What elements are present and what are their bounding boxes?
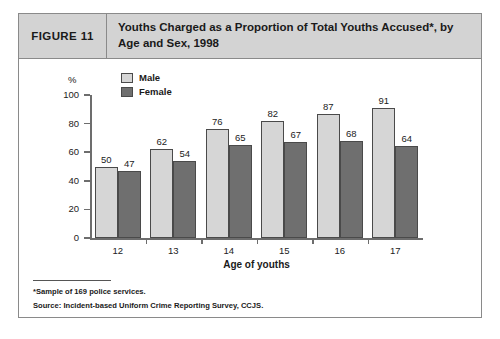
- x-axis-tick-label: 16: [320, 245, 360, 256]
- bar-value-label: 62: [145, 136, 179, 147]
- bar-male-age-12: [95, 167, 118, 239]
- bar-value-label: 65: [223, 132, 257, 143]
- y-axis-tick: [84, 180, 90, 182]
- x-axis-tick: [257, 239, 259, 244]
- bar-female-age-12: [118, 171, 141, 238]
- bar-value-label: 64: [390, 133, 424, 144]
- figure-header: FIGURE 11 Youths Charged as a Proportion…: [19, 14, 481, 59]
- bar-female-age-13: [173, 161, 196, 238]
- footnote-divider: [33, 280, 111, 281]
- y-axis-tick: [84, 237, 90, 239]
- bar-male-age-13: [150, 149, 173, 238]
- x-axis-tick: [368, 239, 370, 244]
- footnote-source: Source: Incident-based Uniform Crime Rep…: [33, 300, 453, 311]
- bar-male-age-14: [206, 129, 229, 238]
- legend-label: Male: [139, 72, 160, 83]
- bar-value-label: 47: [112, 158, 146, 169]
- bar-female-age-16: [340, 141, 363, 238]
- figure-number-label: FIGURE 11: [31, 30, 93, 42]
- y-axis-tick-label: 60: [39, 147, 79, 157]
- bar-value-label: 68: [334, 128, 368, 139]
- y-axis-tick: [84, 123, 90, 125]
- bar-value-label: 67: [279, 129, 313, 140]
- figure-title-cell: Youths Charged as a Proportion of Total …: [107, 14, 481, 58]
- figure-container: FIGURE 11 Youths Charged as a Proportion…: [18, 13, 482, 318]
- legend-label: Female: [139, 86, 172, 97]
- bar-value-label: 54: [168, 148, 202, 159]
- bar-male-age-17: [372, 108, 395, 238]
- bar-value-label: 91: [367, 95, 401, 106]
- y-axis-tick-label: 20: [39, 204, 79, 214]
- bar-female-age-15: [284, 142, 307, 238]
- y-axis-tick: [84, 209, 90, 211]
- x-axis-tick: [201, 239, 203, 244]
- x-axis-tick-label: 12: [98, 245, 138, 256]
- legend-item-male: Male: [121, 72, 172, 83]
- chart-legend: MaleFemale: [121, 72, 172, 100]
- figure-number-cell: FIGURE 11: [19, 14, 107, 58]
- bar-value-label: 82: [256, 108, 290, 119]
- figure-title: Youths Charged as a Proportion of Total …: [118, 20, 473, 52]
- y-axis-unit-label: %: [68, 74, 76, 85]
- y-axis-tick-label: 40: [39, 176, 79, 186]
- x-axis-tick-label: 17: [375, 245, 415, 256]
- y-axis-tick-label: 100: [39, 90, 79, 100]
- footnotes-block: *Sample of 169 police services. Source: …: [33, 280, 453, 315]
- bar-female-age-14: [229, 145, 252, 238]
- footnote-sample: *Sample of 169 police services.: [33, 286, 453, 297]
- bar-value-label: 87: [311, 101, 345, 112]
- x-axis-tick: [312, 239, 314, 244]
- legend-swatch-icon: [121, 73, 133, 83]
- bar-female-age-17: [395, 146, 418, 238]
- x-axis-title: Age of youths: [90, 259, 423, 270]
- x-axis-tick-label: 14: [209, 245, 249, 256]
- legend-swatch-icon: [121, 87, 133, 97]
- y-axis-tick-label: 80: [39, 119, 79, 129]
- y-axis-line: [90, 95, 92, 238]
- x-axis-tick: [146, 239, 148, 244]
- y-axis-tick: [84, 94, 90, 96]
- x-axis-tick-label: 15: [264, 245, 304, 256]
- chart-plot-area: % 020406080100 121314151617 504762547665…: [19, 59, 481, 274]
- legend-item-female: Female: [121, 86, 172, 97]
- y-axis-tick-label: 0: [39, 233, 79, 243]
- x-axis-tick-label: 13: [153, 245, 193, 256]
- bar-value-label: 76: [200, 116, 234, 127]
